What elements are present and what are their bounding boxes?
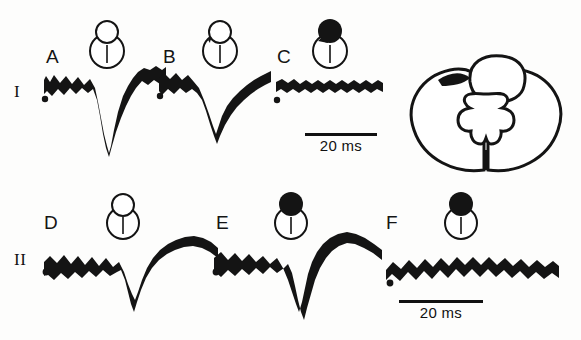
spinal-cord-cross-section bbox=[398, 52, 574, 184]
panel-letter-C: C bbox=[277, 46, 291, 68]
stimulus-marker-C bbox=[274, 97, 280, 103]
scalebar-bottom: 20 ms bbox=[399, 300, 483, 321]
trace-A bbox=[38, 58, 168, 172]
scalebar-top-line bbox=[305, 133, 377, 136]
scalebar-bottom-label: 20 ms bbox=[399, 304, 483, 321]
stimulus-marker-B bbox=[157, 93, 163, 99]
lesion-icon-C bbox=[306, 16, 354, 74]
stimulus-marker-D bbox=[43, 269, 50, 276]
figure-panel: I A B C bbox=[0, 0, 581, 340]
trace-F bbox=[382, 236, 562, 300]
scalebar-bottom-line bbox=[399, 300, 483, 303]
stimulus-marker-A bbox=[42, 96, 48, 102]
row-label-II: II bbox=[14, 250, 26, 270]
scalebar-top-label: 20 ms bbox=[305, 137, 377, 154]
panel-letter-F: F bbox=[386, 212, 398, 234]
stimulus-marker-F bbox=[387, 280, 394, 287]
row-label-I: I bbox=[14, 82, 20, 102]
trace-D bbox=[40, 220, 225, 334]
trace-E bbox=[210, 218, 390, 337]
trace-B bbox=[155, 60, 275, 159]
scalebar-top: 20 ms bbox=[305, 133, 377, 154]
trace-C bbox=[272, 72, 387, 110]
stimulus-marker-E bbox=[213, 269, 220, 276]
